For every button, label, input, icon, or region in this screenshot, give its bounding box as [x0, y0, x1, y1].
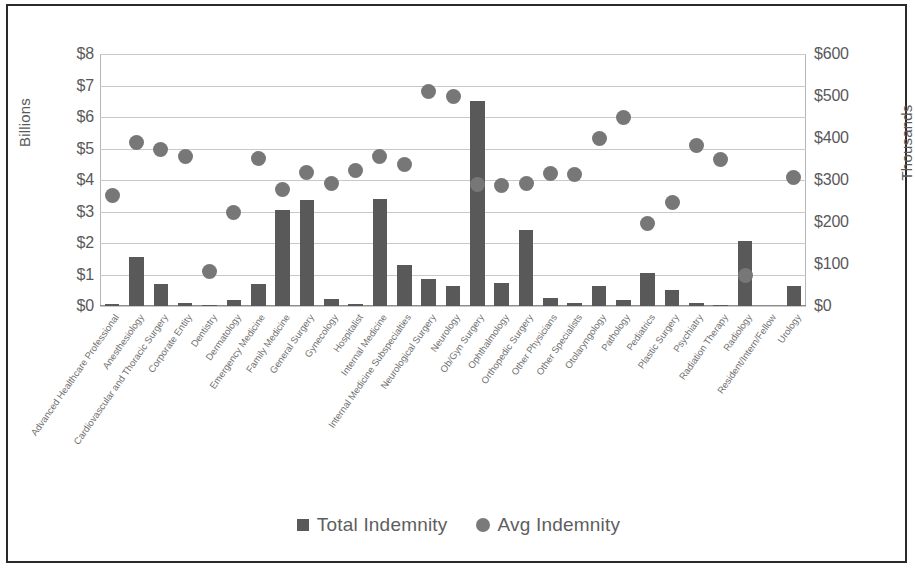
data-point-marker [275, 182, 290, 197]
data-point-marker [519, 176, 534, 191]
right-axis-tick-label: $0 [814, 297, 831, 315]
right-axis-tick-label: $200 [814, 213, 849, 231]
left-axis-tick-label: $4 [77, 171, 94, 189]
data-point-marker [397, 157, 412, 172]
chart-legend: Total Indemnity Avg Indemnity [8, 514, 909, 536]
data-point-marker [299, 165, 314, 180]
gridline [100, 86, 806, 87]
legend-label: Avg Indemnity [498, 514, 621, 536]
gridline [100, 117, 806, 118]
chart-canvas: Billions Thousands $0$1$2$3$4$5$6$7$8 $0… [8, 6, 909, 565]
left-axis-tick-label: $6 [77, 108, 94, 126]
data-point-marker [494, 178, 509, 193]
circle-marker-icon [476, 518, 490, 532]
data-point-marker [786, 170, 801, 185]
data-point-marker [665, 195, 680, 210]
legend-label: Total Indemnity [317, 514, 448, 536]
left-axis: $0$1$2$3$4$5$6$7$8 [38, 54, 94, 306]
left-axis-tick-label: $8 [77, 45, 94, 63]
left-axis-tick-label: $7 [77, 77, 94, 95]
gridline [100, 212, 806, 213]
right-axis-tick-label: $300 [814, 171, 849, 189]
gridline [100, 54, 806, 55]
category-labels: Advanced Healthcare ProfessionalAnesthes… [100, 308, 806, 498]
data-point-marker [689, 138, 704, 153]
left-axis-tick-label: $5 [77, 140, 94, 158]
data-point-marker [348, 163, 363, 178]
data-point-marker [470, 177, 485, 192]
right-axis-tick-label: $500 [814, 87, 849, 105]
right-axis-tick-label: $400 [814, 129, 849, 147]
left-axis-tick-label: $1 [77, 266, 94, 284]
gridline [100, 180, 806, 181]
data-point-marker [592, 131, 607, 146]
square-marker-icon [297, 519, 309, 531]
left-axis-title: Billions [16, 98, 33, 147]
data-point-marker [178, 149, 193, 164]
data-point-marker [324, 176, 339, 191]
legend-item-total-indemnity[interactable]: Total Indemnity [297, 514, 448, 536]
data-point-marker [153, 142, 168, 157]
legend-item-avg-indemnity[interactable]: Avg Indemnity [476, 514, 621, 536]
data-point-marker [421, 84, 436, 99]
data-point-marker [105, 188, 120, 203]
data-point-marker [372, 149, 387, 164]
chart-frame: Billions Thousands $0$1$2$3$4$5$6$7$8 $0… [6, 4, 907, 563]
data-point-marker [640, 216, 655, 231]
plot-area [100, 54, 806, 306]
data-point-marker [446, 89, 461, 104]
right-axis: $0$100$200$300$400$500$600 [814, 54, 880, 306]
data-point-marker [616, 110, 631, 125]
data-point-marker [713, 152, 728, 167]
right-axis-tick-label: $600 [814, 45, 849, 63]
left-axis-tick-label: $0 [77, 297, 94, 315]
data-point-marker [543, 166, 558, 181]
data-point-marker [251, 151, 266, 166]
left-axis-tick-label: $3 [77, 203, 94, 221]
right-axis-title: Thousands [898, 104, 915, 180]
left-axis-tick-label: $2 [77, 234, 94, 252]
data-point-marker [129, 135, 144, 150]
